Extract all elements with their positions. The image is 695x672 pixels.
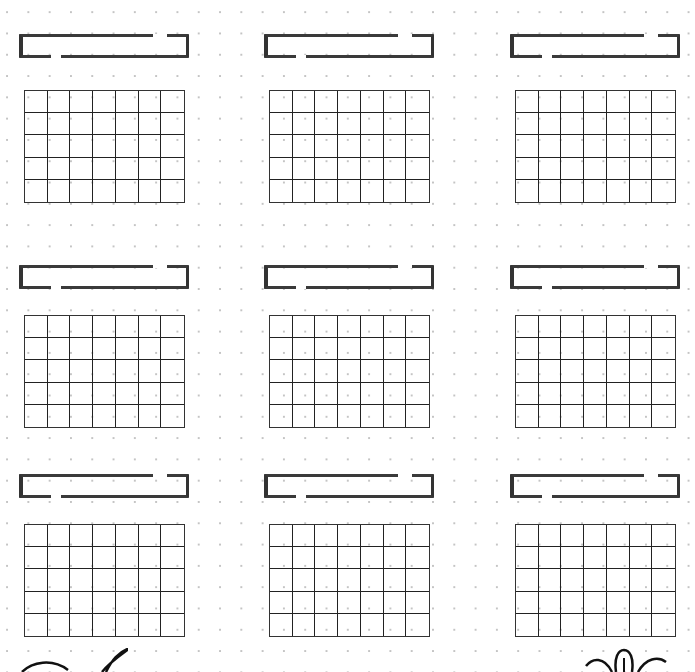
grid-cell[interactable] — [48, 91, 71, 113]
grid-cell[interactable] — [384, 113, 407, 135]
grid-cell[interactable] — [652, 180, 675, 202]
grid-cell[interactable] — [93, 525, 116, 547]
grid-cell[interactable] — [338, 592, 361, 614]
grid-cell[interactable] — [25, 135, 48, 157]
grid-cell[interactable] — [584, 180, 607, 202]
grid-cell[interactable] — [561, 338, 584, 360]
grid-cell[interactable] — [338, 158, 361, 180]
grid-cell[interactable] — [561, 113, 584, 135]
grid-cell[interactable] — [293, 405, 316, 427]
grid-cell[interactable] — [516, 547, 539, 569]
grid-cell[interactable] — [315, 405, 338, 427]
grid-cell[interactable] — [270, 405, 293, 427]
grid-cell[interactable] — [270, 569, 293, 591]
grid-cell[interactable] — [539, 614, 562, 636]
grid-cell[interactable] — [139, 569, 162, 591]
grid-cell[interactable] — [25, 180, 48, 202]
grid-cell[interactable] — [584, 316, 607, 338]
grid-cell[interactable] — [315, 383, 338, 405]
grid-cell[interactable] — [539, 135, 562, 157]
grid-cell[interactable] — [293, 338, 316, 360]
grid-cell[interactable] — [70, 180, 93, 202]
grid-cell[interactable] — [607, 113, 630, 135]
grid-cell[interactable] — [607, 135, 630, 157]
grid-cell[interactable] — [539, 547, 562, 569]
grid-cell[interactable] — [139, 525, 162, 547]
grid-cell[interactable] — [270, 180, 293, 202]
grid-cell[interactable] — [338, 614, 361, 636]
grid-cell[interactable] — [516, 91, 539, 113]
grid-cell[interactable] — [270, 158, 293, 180]
header-box[interactable] — [264, 265, 434, 289]
grid-cell[interactable] — [338, 360, 361, 382]
grid-cell[interactable] — [70, 113, 93, 135]
grid-cell[interactable] — [384, 569, 407, 591]
grid-cell[interactable] — [161, 383, 184, 405]
grid-cell[interactable] — [161, 569, 184, 591]
grid-cell[interactable] — [25, 383, 48, 405]
grid-cell[interactable] — [338, 113, 361, 135]
grid-cell[interactable] — [539, 360, 562, 382]
grid-cell[interactable] — [584, 91, 607, 113]
grid-cell[interactable] — [584, 360, 607, 382]
grid-cell[interactable] — [406, 569, 429, 591]
grid-cell[interactable] — [293, 316, 316, 338]
grid-cell[interactable] — [93, 316, 116, 338]
grid-cell[interactable] — [561, 180, 584, 202]
grid-cell[interactable] — [561, 91, 584, 113]
grid-cell[interactable] — [70, 158, 93, 180]
grid-cell[interactable] — [139, 360, 162, 382]
grid-cell[interactable] — [361, 569, 384, 591]
grid-cell[interactable] — [338, 316, 361, 338]
grid-cell[interactable] — [607, 360, 630, 382]
grid-cell[interactable] — [607, 547, 630, 569]
header-box[interactable] — [19, 34, 189, 58]
grid-cell[interactable] — [384, 180, 407, 202]
grid-cell[interactable] — [25, 405, 48, 427]
grid-cell[interactable] — [652, 338, 675, 360]
grid-cell[interactable] — [630, 405, 653, 427]
grid-cell[interactable] — [361, 547, 384, 569]
grid-cell[interactable] — [361, 135, 384, 157]
grid-cell[interactable] — [70, 592, 93, 614]
grid-cell[interactable] — [139, 592, 162, 614]
grid-cell[interactable] — [584, 525, 607, 547]
grid-cell[interactable] — [361, 113, 384, 135]
grid-cell[interactable] — [315, 360, 338, 382]
grid-cell[interactable] — [139, 91, 162, 113]
grid-cell[interactable] — [70, 360, 93, 382]
grid-cell[interactable] — [584, 158, 607, 180]
header-box[interactable] — [510, 474, 680, 498]
grid-cell[interactable] — [338, 383, 361, 405]
grid-cell[interactable] — [139, 158, 162, 180]
grid-cell[interactable] — [293, 525, 316, 547]
grid-cell[interactable] — [607, 614, 630, 636]
grid-cell[interactable] — [25, 113, 48, 135]
grid-cell[interactable] — [361, 180, 384, 202]
grid-cell[interactable] — [70, 569, 93, 591]
grid-cell[interactable] — [584, 135, 607, 157]
grid-cell[interactable] — [139, 338, 162, 360]
grid-cell[interactable] — [161, 338, 184, 360]
grid-cell[interactable] — [93, 405, 116, 427]
grid-cell[interactable] — [25, 614, 48, 636]
grid-cell[interactable] — [539, 338, 562, 360]
grid-cell[interactable] — [139, 113, 162, 135]
grid-cell[interactable] — [116, 91, 139, 113]
grid-cell[interactable] — [293, 569, 316, 591]
grid-cell[interactable] — [48, 405, 71, 427]
grid-cell[interactable] — [93, 614, 116, 636]
grid-cell[interactable] — [139, 316, 162, 338]
grid-cell[interactable] — [48, 569, 71, 591]
grid-cell[interactable] — [93, 338, 116, 360]
grid-cell[interactable] — [315, 338, 338, 360]
grid-cell[interactable] — [561, 405, 584, 427]
grid-cell[interactable] — [607, 338, 630, 360]
grid-cell[interactable] — [384, 547, 407, 569]
grid-cell[interactable] — [607, 91, 630, 113]
grid-cell[interactable] — [561, 383, 584, 405]
grid-cell[interactable] — [116, 113, 139, 135]
grid-cell[interactable] — [406, 614, 429, 636]
header-box[interactable] — [510, 34, 680, 58]
grid-cell[interactable] — [630, 592, 653, 614]
